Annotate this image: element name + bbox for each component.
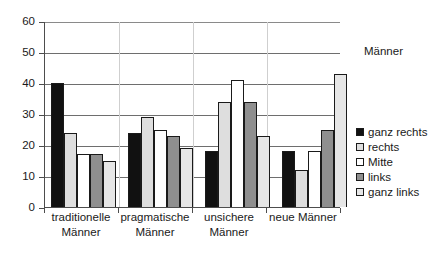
y-tick-mark [39, 22, 44, 23]
x-axis-labels: traditionelleMännerpragmatischeMänneruns… [44, 210, 340, 240]
x-axis-label-line: Männer [44, 225, 118, 240]
legend-item[interactable]: links [356, 171, 427, 183]
y-tick-label: 10 [0, 171, 35, 183]
bar [321, 130, 334, 208]
legend-item[interactable]: ganz links [356, 186, 427, 198]
legend-label: rechts [368, 141, 399, 153]
legend-swatch-icon [356, 128, 364, 136]
y-tick-label: 40 [0, 78, 35, 90]
bar [167, 136, 180, 207]
x-axis-label: unsichereMänner [192, 210, 266, 240]
x-axis-label-line: traditionelle [44, 210, 118, 225]
legend-label: ganz rechts [368, 126, 427, 138]
legend-label: Mitte [368, 156, 393, 168]
bar-group [122, 22, 199, 207]
bar-group [199, 22, 276, 207]
y-tick-mark [39, 84, 44, 85]
bar-groups [45, 22, 340, 207]
bar [205, 151, 218, 207]
y-tick-label: 60 [0, 16, 35, 28]
bar [180, 148, 193, 207]
legend-label: ganz links [368, 186, 419, 198]
legend-swatch-icon [356, 188, 364, 196]
legend-swatch-icon [356, 143, 364, 151]
bar [90, 154, 103, 207]
bar [64, 133, 77, 207]
legend-swatch-icon [356, 158, 364, 166]
bar [308, 151, 321, 207]
bar [128, 133, 141, 207]
legend-item[interactable]: rechts [356, 141, 427, 153]
bar [103, 161, 116, 208]
bar [51, 83, 64, 207]
bar [141, 117, 154, 207]
x-axis-label: neue Männer [266, 210, 340, 240]
bar-chart: 0102030405060 traditionelleMännerpragmat… [0, 0, 444, 265]
x-axis-label-line: unsichere [192, 210, 266, 225]
y-tick-mark [39, 177, 44, 178]
x-axis-label-line: Männer [118, 225, 192, 240]
legend-label: links [368, 171, 391, 183]
x-axis-label-line: neue Männer [266, 210, 340, 225]
bar [244, 102, 257, 207]
plot-area [44, 22, 340, 208]
bar [282, 151, 295, 207]
bar [154, 130, 167, 208]
x-axis-label: pragmatischeMänner [118, 210, 192, 240]
bar [295, 170, 308, 207]
x-tick-mark [340, 208, 341, 213]
y-tick-mark [39, 53, 44, 54]
bar [218, 102, 231, 207]
bar [257, 136, 270, 207]
bar [231, 80, 244, 207]
legend-item[interactable]: Mitte [356, 156, 427, 168]
y-tick-mark [39, 115, 44, 116]
legend-swatch-icon [356, 173, 364, 181]
y-tick-label: 50 [0, 47, 35, 59]
legend-title: Männer [364, 45, 403, 57]
x-axis-label-line: Männer [192, 225, 266, 240]
y-tick-label: 0 [0, 202, 35, 214]
legend: ganz rechtsrechtsMittelinksganz links [356, 126, 427, 198]
x-axis-label-line: pragmatische [118, 210, 192, 225]
y-tick-label: 30 [0, 109, 35, 121]
bar-group [276, 22, 353, 207]
legend-item[interactable]: ganz rechts [356, 126, 427, 138]
y-tick-mark [39, 146, 44, 147]
x-axis-label-line [266, 225, 340, 240]
bar [334, 74, 347, 207]
x-axis-label: traditionelleMänner [44, 210, 118, 240]
bar-group [45, 22, 122, 207]
bar [77, 154, 90, 207]
y-tick-label: 20 [0, 140, 35, 152]
